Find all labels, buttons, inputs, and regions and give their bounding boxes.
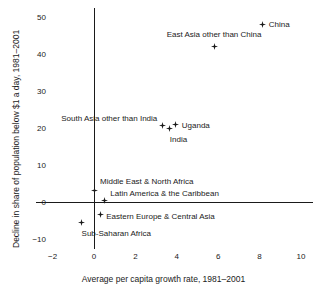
point-label: South Asia other than India — [61, 113, 157, 122]
scatter-chart-figure: −20246810−1001020304050ChinaEast Asia ot… — [0, 0, 327, 288]
data-point — [101, 197, 108, 204]
data-point — [172, 121, 179, 128]
data-point — [259, 21, 266, 28]
x-tick-label: 10 — [297, 252, 306, 261]
data-point — [211, 43, 218, 50]
point-label: India — [170, 135, 187, 144]
x-tick-label: −2 — [48, 252, 57, 261]
point-label: East Asia other than China — [167, 29, 262, 38]
point-label: Middle East & North Africa — [100, 176, 193, 185]
point-label: China — [269, 20, 290, 29]
x-axis-line — [36, 202, 313, 203]
x-tick-label: 0 — [92, 252, 96, 261]
point-label: Uganda — [182, 121, 210, 130]
data-point — [166, 125, 173, 132]
x-tick-label: 4 — [175, 252, 179, 261]
point-label: Latin America & the Caribbean — [110, 188, 219, 197]
data-point — [78, 219, 85, 226]
x-tick-label: 2 — [133, 252, 137, 261]
point-label: Eastern Europe & Central Asia — [106, 211, 215, 220]
data-point — [159, 122, 166, 129]
y-tick-label: 0 — [0, 198, 46, 207]
y-axis-title: Decline in share of population below $1 … — [11, 30, 21, 248]
x-axis-title: Average per capita growth rate, 1981–200… — [0, 274, 327, 284]
y-tick-label: 10 — [0, 161, 46, 170]
x-tick-label: 8 — [257, 252, 261, 261]
y-tick-label: 30 — [0, 87, 46, 96]
plot-area: −20246810−1001020304050ChinaEast Asia ot… — [0, 0, 327, 288]
y-tick-label: 20 — [0, 124, 46, 133]
x-tick-label: 6 — [216, 252, 220, 261]
y-tick-label: 50 — [0, 13, 46, 22]
point-label: Sub-Saharan Africa — [82, 229, 151, 238]
x-axis-zero-tick — [94, 245, 95, 249]
y-tick-label: −10 — [0, 235, 46, 244]
y-axis-line — [94, 8, 95, 245]
y-tick-label: 40 — [0, 50, 46, 59]
data-point — [97, 211, 104, 218]
